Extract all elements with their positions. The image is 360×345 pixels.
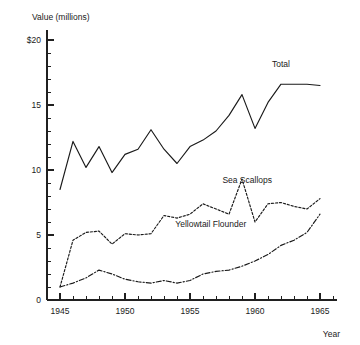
data-series-group (60, 84, 320, 287)
y-tick-label: $20 (27, 35, 41, 45)
y-tick-label: 15 (32, 100, 42, 110)
y-axis-tick-labels: 051015$20 (27, 35, 41, 305)
y-tick-label: 10 (32, 165, 42, 175)
series-line-sea-scallops (60, 179, 320, 287)
y-axis-title: Value (millions) (32, 12, 90, 22)
series-label-total: Total (272, 59, 290, 69)
x-axis: 19451950195519601965 Year (47, 293, 340, 339)
x-tick-label: 1955 (181, 306, 200, 316)
y-tick-label: 0 (36, 295, 41, 305)
x-axis-tick-labels: 19451950195519601965 (51, 306, 330, 316)
series-label-yellowtail-flounder: Yellowtail Flounder (175, 219, 246, 229)
line-chart: 051015$20 Value (millions) 1945195019551… (0, 0, 360, 345)
y-tick-label: 5 (36, 230, 41, 240)
series-line-total (60, 84, 320, 189)
x-tick-label: 1960 (246, 306, 265, 316)
y-axis: 051015$20 Value (millions) (27, 12, 90, 305)
series-label-sea-scallops: Sea Scallops (222, 175, 272, 185)
x-tick-label: 1950 (116, 306, 135, 316)
chart-container: 051015$20 Value (millions) 1945195019551… (0, 0, 360, 345)
x-tick-label: 1965 (311, 306, 330, 316)
x-tick-label: 1945 (51, 306, 70, 316)
x-axis-title: Year (323, 329, 340, 339)
